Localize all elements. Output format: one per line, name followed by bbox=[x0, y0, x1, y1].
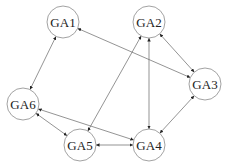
edges-layer bbox=[30, 28, 194, 145]
node-ga1: GA1 bbox=[47, 6, 79, 38]
node-ga2: GA2 bbox=[133, 6, 165, 38]
node-label: GA5 bbox=[67, 138, 92, 153]
node-label: GA1 bbox=[50, 15, 75, 30]
edge-ga1-ga6 bbox=[30, 36, 56, 89]
node-ga6: GA6 bbox=[7, 88, 39, 120]
node-ga3: GA3 bbox=[189, 68, 221, 100]
node-label: GA6 bbox=[10, 97, 36, 112]
edge-ga3-ga4 bbox=[160, 96, 194, 133]
network-diagram: GA1GA2GA3GA4GA5GA6 bbox=[0, 0, 228, 167]
node-ga4: GA4 bbox=[133, 129, 165, 161]
node-label: GA4 bbox=[136, 138, 162, 153]
node-label: GA2 bbox=[136, 15, 161, 30]
node-ga5: GA5 bbox=[64, 129, 96, 161]
edge-ga2-ga5 bbox=[88, 36, 141, 131]
node-label: GA3 bbox=[192, 77, 217, 92]
nodes-layer: GA1GA2GA3GA4GA5GA6 bbox=[7, 6, 221, 161]
edge-ga1-ga3 bbox=[78, 28, 191, 77]
